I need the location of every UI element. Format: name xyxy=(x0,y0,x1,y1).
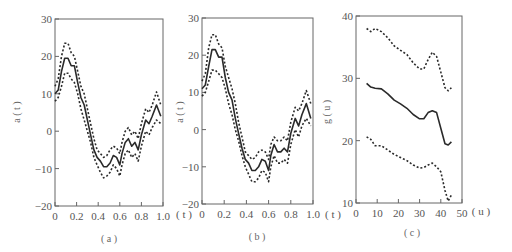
panel-c-y-axis-label: g ( u ) xyxy=(321,100,333,124)
x-tick-label: 0.6 xyxy=(262,208,276,220)
lower-bound-line xyxy=(202,70,311,182)
panel-a-caption: ( a ) xyxy=(101,233,117,245)
y-tick-label: 0 xyxy=(194,124,200,136)
x-tick-label: 30 xyxy=(414,207,426,219)
y-tick-label: 30 xyxy=(41,13,53,25)
panel-a-series xyxy=(55,43,161,178)
panel-c-x-unit: ( u ) xyxy=(472,205,491,218)
panel-a-x-ticks: 00.20.40.60.81.0 xyxy=(52,202,170,222)
x-tick-label: 1.0 xyxy=(156,210,170,222)
upper-bound-line xyxy=(202,35,311,160)
y-tick-label: 10 xyxy=(342,197,354,209)
panel-c-caption: ( c ) xyxy=(404,227,420,239)
lower-bound-line xyxy=(367,137,452,201)
panel-c-y-ticks: 10203040 xyxy=(342,10,360,209)
upper-bound-line xyxy=(367,29,452,91)
y-tick-label: 20 xyxy=(188,49,200,61)
x-tick-label: 0.4 xyxy=(240,208,254,220)
x-tick-label: 0 xyxy=(199,208,205,220)
panel-b-y-axis-label: a ( t ) xyxy=(174,101,186,122)
panel-a-y-axis-label: a ( t ) xyxy=(11,101,23,122)
panel-b-x-unit: ( t ) xyxy=(325,208,341,221)
estimate-line xyxy=(202,50,311,171)
x-tick-label: 0.2 xyxy=(217,208,231,220)
y-tick-label: −20 xyxy=(182,198,200,210)
panel-a-chart: −20−100102030 00.20.40.60.81.0 a ( t ) (… xyxy=(11,13,192,245)
panel-b-series xyxy=(202,35,311,182)
upper-bound-line xyxy=(55,43,161,157)
x-tick-label: 20 xyxy=(393,207,405,219)
y-tick-label: 10 xyxy=(41,88,53,100)
panel-b-caption: ( b ) xyxy=(249,231,266,243)
x-tick-label: 0.8 xyxy=(135,210,149,222)
x-tick-label: 50 xyxy=(457,207,469,219)
x-tick-label: 0 xyxy=(353,207,359,219)
x-tick-label: 0 xyxy=(52,210,58,222)
y-tick-label: −20 xyxy=(35,200,53,212)
x-tick-label: 0.2 xyxy=(70,210,84,222)
panel-a-frame xyxy=(55,19,163,206)
estimate-line xyxy=(55,58,161,166)
panel-c-chart: 10203040 01020304050 g ( u ) ( u ) ( c ) xyxy=(321,10,490,239)
x-tick-label: 10 xyxy=(372,207,384,219)
figure: −20−100102030 00.20.40.60.81.0 a ( t ) (… xyxy=(0,0,512,252)
x-tick-label: 0.6 xyxy=(113,210,127,222)
x-tick-label: 40 xyxy=(435,207,447,219)
y-tick-label: 30 xyxy=(342,72,354,84)
y-tick-label: −10 xyxy=(182,161,200,173)
y-tick-label: 30 xyxy=(188,12,200,24)
y-tick-label: 20 xyxy=(342,135,354,147)
y-tick-label: 0 xyxy=(47,125,53,137)
panel-b-frame xyxy=(202,18,313,204)
x-tick-label: 0.4 xyxy=(91,210,105,222)
y-tick-label: 20 xyxy=(41,50,53,62)
panel-b-x-ticks: 00.20.40.60.81.0 xyxy=(199,200,320,220)
x-tick-label: 0.8 xyxy=(284,208,298,220)
y-tick-label: −10 xyxy=(35,163,53,175)
y-tick-label: 10 xyxy=(188,86,200,98)
y-tick-label: 40 xyxy=(342,10,354,22)
panel-b-chart: −20−100102030 00.20.40.60.81.0 a ( t ) (… xyxy=(174,12,341,243)
panel-c-x-ticks: 01020304050 xyxy=(353,199,468,219)
panel-c-series xyxy=(367,29,452,202)
estimate-line xyxy=(367,83,452,145)
x-tick-label: 1.0 xyxy=(306,208,320,220)
